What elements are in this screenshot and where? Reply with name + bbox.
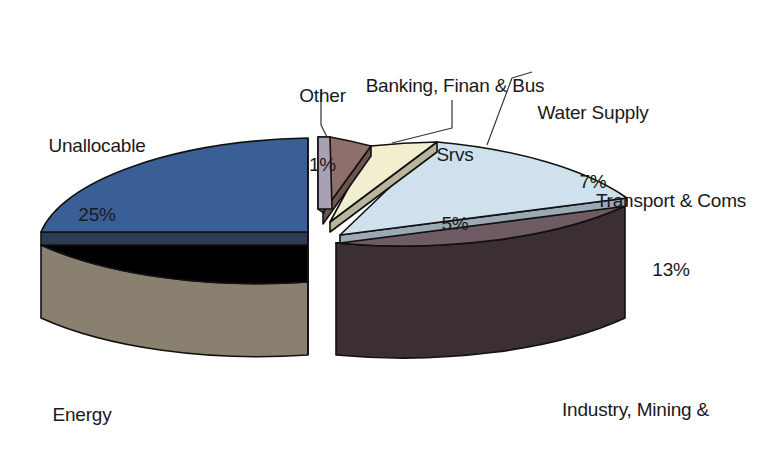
label-industry: Industry, Mining & Construct 24%	[523, 352, 748, 460]
label-unallocable-pct: 25%	[8, 203, 186, 226]
label-transport-pct: 13%	[573, 258, 769, 281]
label-energy-name: Energy	[17, 403, 147, 426]
label-transport-name: Transport & Coms	[573, 189, 769, 212]
chart-canvas: Other 1% Banking, Finan & Bus Srvs 5% Wa…	[0, 0, 769, 460]
label-water-supply-name: Water Supply	[513, 101, 673, 124]
label-unallocable: Unallocable 25%	[8, 88, 186, 272]
label-unallocable-name: Unallocable	[8, 134, 186, 157]
label-energy: Energy 25%	[17, 357, 147, 460]
label-transport: Transport & Coms 13%	[573, 143, 769, 327]
label-industry-name-line1: Industry, Mining &	[523, 398, 748, 421]
